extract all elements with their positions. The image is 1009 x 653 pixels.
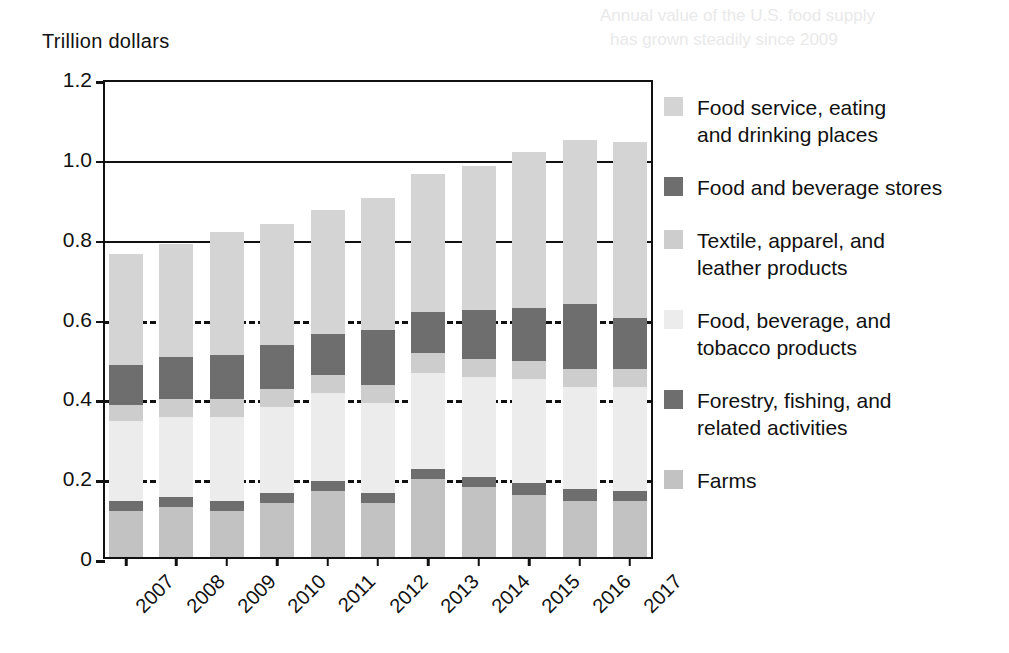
- bar-segment: [311, 393, 345, 481]
- bar-segment: [361, 403, 395, 493]
- bar-segment: [411, 174, 445, 312]
- legend-swatch-icon: [664, 310, 683, 329]
- bar-segment: [311, 334, 345, 376]
- bar-segment: [109, 365, 143, 405]
- bar-segment: [563, 489, 597, 501]
- bar-segment: [109, 501, 143, 511]
- bar-group-2007: [109, 82, 143, 557]
- bar-segment: [260, 345, 294, 389]
- y-axis-tick: [96, 81, 105, 84]
- bar-group-2014: [462, 82, 496, 557]
- bar-group-2011: [311, 82, 345, 557]
- bar-segment: [613, 491, 647, 501]
- bar-segment: [411, 479, 445, 557]
- bar-segment: [613, 318, 647, 370]
- bar-segment: [159, 357, 193, 399]
- chart-bars: [105, 82, 651, 557]
- legend-item-3[interactable]: Food, beverage, and tobacco products: [664, 307, 1004, 361]
- bar-segment: [563, 501, 597, 557]
- bar-stack: [613, 142, 647, 557]
- x-axis-label-slot: 2011: [310, 562, 344, 632]
- bar-group-2010: [260, 82, 294, 557]
- bar-stack: [411, 174, 445, 557]
- bar-segment: [563, 369, 597, 387]
- legend-swatch-icon: [664, 390, 683, 409]
- legend-item-2[interactable]: Textile, apparel, and leather products: [664, 227, 1004, 281]
- bar-segment: [361, 503, 395, 557]
- y-axis-tick: [96, 161, 105, 164]
- x-axis-label-slot: 2009: [209, 562, 243, 632]
- chart-plot-area: [103, 80, 653, 559]
- bar-stack: [462, 166, 496, 557]
- legend-item-label: Farms: [697, 467, 757, 494]
- bar-stack: [563, 140, 597, 557]
- legend-item-label: Food, beverage, and tobacco products: [697, 307, 891, 361]
- y-axis-tick-label: 1.0: [63, 147, 92, 171]
- bar-segment: [260, 503, 294, 557]
- bar-segment: [210, 399, 244, 417]
- x-axis-tick-labels: 2007200820092010201120122013201420152016…: [103, 562, 653, 632]
- bar-stack: [109, 254, 143, 557]
- x-axis-label-slot: 2008: [158, 562, 192, 632]
- legend-swatch-icon: [664, 177, 683, 196]
- legend-item-0[interactable]: Food service, eating and drinking places: [664, 94, 1004, 148]
- y-axis-tick-label: 0: [80, 547, 92, 571]
- bar-segment: [512, 379, 546, 483]
- bar-segment: [563, 140, 597, 304]
- bar-group-2008: [159, 82, 193, 557]
- bar-segment: [512, 361, 546, 379]
- legend-swatch-icon: [664, 97, 683, 116]
- bar-segment: [210, 417, 244, 501]
- y-axis-tick: [96, 400, 105, 403]
- bar-segment: [159, 497, 193, 507]
- x-axis-label-slot: 2014: [463, 562, 497, 632]
- scan-artifact: has grown steadily since 2009: [610, 30, 838, 50]
- bar-segment: [260, 407, 294, 493]
- x-axis-label-slot: 2016: [564, 562, 598, 632]
- bar-segment: [210, 501, 244, 511]
- legend-item-label: Textile, apparel, and leather products: [697, 227, 885, 281]
- bar-segment: [361, 385, 395, 403]
- bar-segment: [159, 507, 193, 557]
- bar-group-2013: [411, 82, 445, 557]
- legend-item-label: Forestry, fishing, and related activitie…: [697, 387, 892, 441]
- bar-segment: [512, 152, 546, 308]
- x-axis-label-slot: 2017: [615, 562, 649, 632]
- bar-segment: [311, 210, 345, 334]
- bar-segment: [512, 308, 546, 362]
- bar-segment: [311, 491, 345, 557]
- x-axis-label-slot: 2015: [513, 562, 547, 632]
- legend-swatch-icon: [664, 470, 683, 489]
- bar-segment: [613, 501, 647, 557]
- x-axis-label-slot: 2007: [107, 562, 141, 632]
- bar-segment: [109, 405, 143, 421]
- y-axis-tick: [96, 480, 105, 483]
- bar-segment: [361, 493, 395, 503]
- x-axis-label-slot: 2012: [361, 562, 395, 632]
- bar-segment: [311, 375, 345, 393]
- y-axis-tick-label: 0.4: [63, 387, 92, 411]
- bar-segment: [462, 377, 496, 477]
- bar-segment: [159, 417, 193, 497]
- x-axis-tick-label: 2017: [639, 570, 687, 618]
- bar-stack: [210, 232, 244, 557]
- bar-segment: [210, 511, 244, 557]
- bar-segment: [411, 469, 445, 479]
- bar-segment: [512, 495, 546, 557]
- chart-legend: Food service, eating and drinking places…: [664, 94, 1004, 520]
- y-axis-tick-label: 1.2: [63, 68, 92, 92]
- legend-item-5[interactable]: Farms: [664, 467, 1004, 494]
- bar-segment: [311, 481, 345, 491]
- bar-stack: [311, 210, 345, 557]
- bar-segment: [613, 387, 647, 491]
- bar-segment: [361, 330, 395, 386]
- bar-segment: [210, 232, 244, 356]
- bar-stack: [512, 152, 546, 557]
- bar-segment: [109, 254, 143, 366]
- x-axis-label-slot: 2013: [412, 562, 446, 632]
- y-axis-tick: [96, 241, 105, 244]
- bar-stack: [260, 224, 294, 557]
- legend-item-1[interactable]: Food and beverage stores: [664, 174, 1004, 201]
- legend-item-4[interactable]: Forestry, fishing, and related activitie…: [664, 387, 1004, 441]
- scan-artifact: Annual value of the U.S. food supply: [600, 6, 875, 26]
